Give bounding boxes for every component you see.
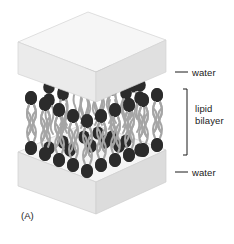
lipid-bilayer-bracket (183, 89, 187, 155)
label-lipid-bilayer-line2: bilayer (195, 115, 224, 126)
lipid-bilayer-figure: water lipid bilayer water (A) (0, 0, 234, 244)
annotation-leaders (175, 72, 188, 172)
label-lipid-bilayer-line1: lipid (195, 103, 212, 114)
label-water-top: water (192, 67, 216, 78)
label-water-bottom: water (192, 167, 216, 178)
figure-caption: (A) (21, 210, 34, 221)
